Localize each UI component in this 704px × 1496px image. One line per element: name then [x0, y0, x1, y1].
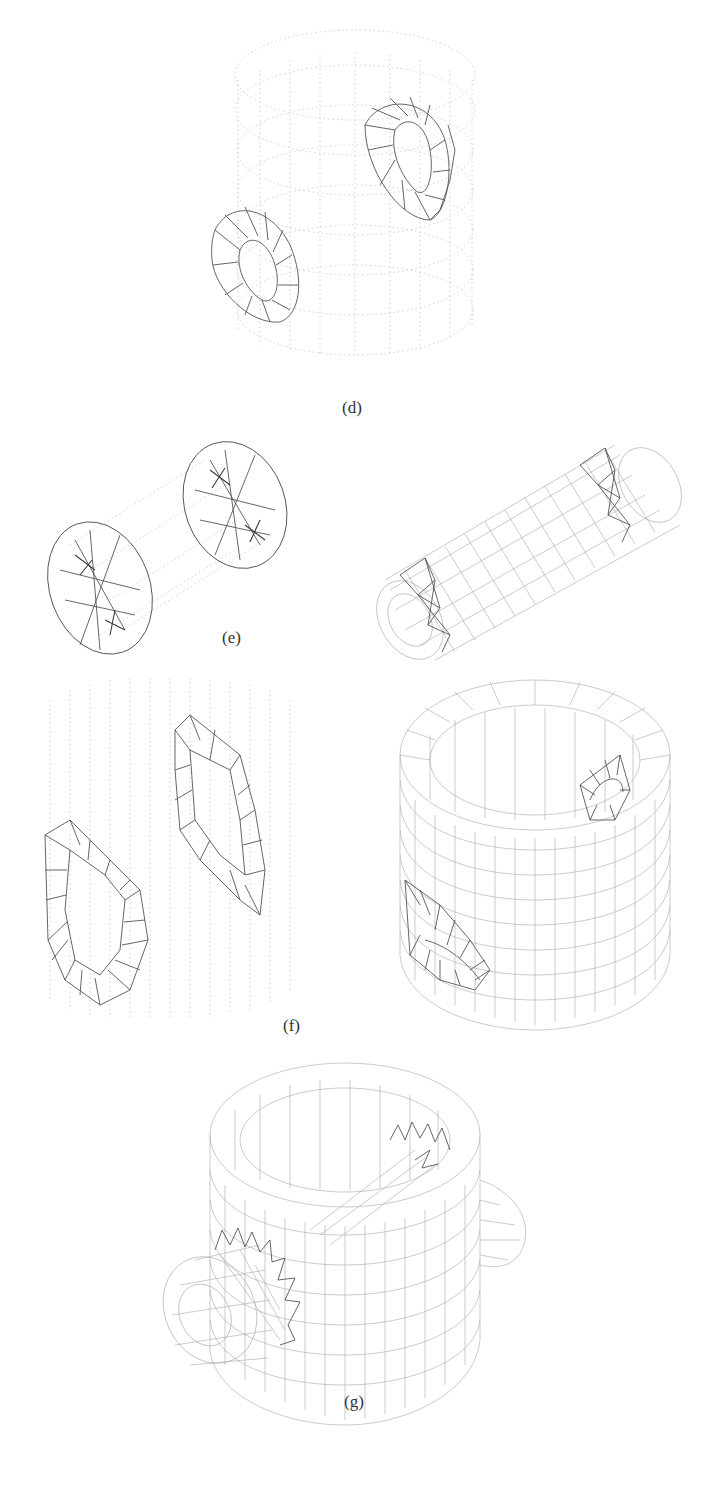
mesh-tube-hex-e [370, 430, 700, 660]
panel-g: (g) [0, 1040, 704, 1496]
panel-d: (d) [0, 0, 704, 430]
panel-label-g: (g) [344, 1392, 364, 1412]
mesh-slice-f [40, 660, 320, 1040]
mesh-cylinder-d [0, 0, 704, 400]
panel-f: (f) [0, 660, 704, 1040]
panel-e: (e) [0, 430, 704, 660]
panel-label-e: (e) [222, 628, 241, 648]
mesh-cylinder-with-pipe-g [160, 1040, 560, 1440]
panel-label-d: (d) [342, 398, 362, 418]
mesh-tube-sparse-e [30, 430, 350, 660]
panel-label-f: (f) [283, 1016, 300, 1036]
mesh-hollow-cylinder-f [385, 660, 685, 1040]
